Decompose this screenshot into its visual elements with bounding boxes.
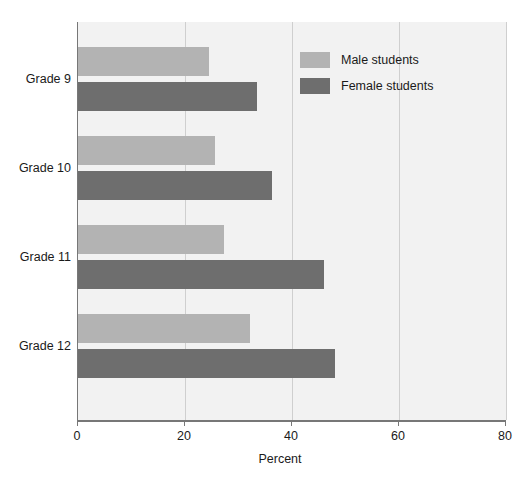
y-axis-label-grade-12: Grade 12 (0, 339, 71, 353)
x-axis-title-text: Percent (258, 452, 301, 466)
x-tick-0 (77, 420, 78, 426)
bar-grade-12-female (78, 349, 335, 378)
y-axis-category-labels: Grade 9Grade 10Grade 11Grade 12 (0, 22, 71, 420)
legend: Male studentsFemale students (300, 50, 433, 102)
y-axis-label-grade-11: Grade 11 (0, 250, 71, 264)
x-tick-20 (184, 420, 185, 426)
x-tick-label-60: 60 (391, 429, 405, 443)
bar-grade-12-male (78, 314, 250, 343)
bar-grade-11-male (78, 225, 224, 254)
y-axis-label-grade-9: Grade 9 (0, 72, 71, 86)
x-tick-40 (291, 420, 292, 426)
bar-grade-11-female (78, 260, 324, 289)
bar-grade-9-female (78, 82, 257, 111)
gridline-80 (506, 22, 507, 420)
x-axis-title: Percent (0, 452, 532, 466)
x-tick-label-20: 20 (177, 429, 191, 443)
bar-grade-9-male (78, 47, 209, 76)
x-tick-80 (505, 420, 506, 426)
x-tick-label-80: 80 (498, 429, 512, 443)
legend-swatch-female-icon (300, 78, 330, 94)
x-tick-60 (398, 420, 399, 426)
bar-grade-10-female (78, 171, 272, 200)
legend-item-female: Female students (300, 76, 433, 96)
bar-chart: Grade 9Grade 10Grade 11Grade 12 02040608… (0, 0, 532, 480)
x-tick-label-0: 0 (74, 429, 81, 443)
plot-area (77, 22, 506, 420)
legend-item-male: Male students (300, 50, 433, 70)
legend-label-male: Male students (341, 53, 419, 67)
y-axis-label-grade-10: Grade 10 (0, 161, 71, 175)
legend-label-female: Female students (341, 79, 433, 93)
legend-swatch-male-icon (300, 52, 330, 68)
bar-grade-10-male (78, 136, 215, 165)
x-tick-label-40: 40 (284, 429, 298, 443)
